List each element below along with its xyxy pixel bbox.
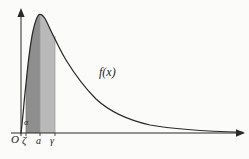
y-axis-arrowhead	[17, 8, 24, 17]
density-figure: O ζ a γ α f(x)	[0, 0, 249, 159]
origin-label: O	[11, 134, 19, 145]
alpha-area-annotation: α	[24, 119, 28, 127]
x-axis-arrowhead	[236, 129, 245, 136]
x-tick-label-zeta: ζ	[22, 135, 26, 146]
shaded-region-light	[21, 14, 243, 133]
x-tick-label-a: a	[36, 136, 41, 146]
x-tick-label-gamma: γ	[50, 136, 54, 146]
curve-label-fx: f(x)	[99, 66, 116, 78]
